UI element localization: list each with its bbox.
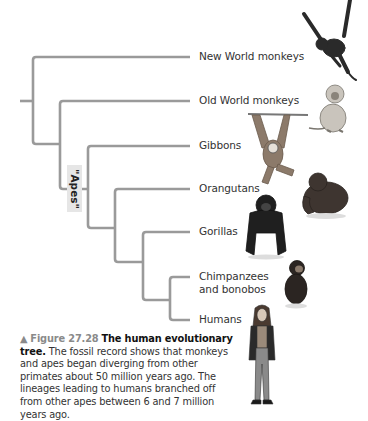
taxon-chimpanzees-bonobos: Chimpanzees and bonobos [199,270,269,296]
spider-monkey-illustration [300,0,368,82]
human-illustration [245,304,279,406]
apes-clade-label: "Apes" [67,165,82,212]
chimpanzee-illustration [281,259,311,311]
taxon-new-world-monkeys: New World monkeys [199,50,304,63]
gorilla-illustration [242,193,290,261]
figure-marker-icon: ▲ [20,333,27,344]
figure-description: The fossil record shows that monkeys and… [20,346,228,420]
figure-number: Figure 27.28 [30,333,98,344]
figure-caption: ▲ Figure 27.28 The human evolutionary tr… [20,333,235,421]
taxon-old-world-monkeys: Old World monkeys [199,94,299,107]
taxon-humans: Humans [199,313,242,326]
orangutan-illustration [296,168,352,220]
taxon-gibbons: Gibbons [199,139,241,152]
old-world-monkey-illustration [305,82,355,134]
taxon-gorillas: Gorillas [199,225,238,238]
